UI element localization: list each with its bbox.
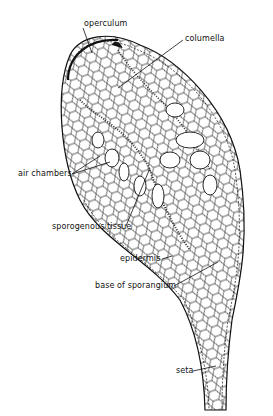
label-air-chambers: air chambers <box>18 169 72 178</box>
sporangium-illustration <box>0 0 273 416</box>
label-sporogenous-tissue: sporogenous tissue <box>52 222 131 231</box>
label-seta: seta <box>176 366 194 375</box>
label-operculum: operculum <box>84 19 127 28</box>
label-base-of-sporangium: base of sporangium <box>95 281 176 290</box>
label-epidermis: epidermis <box>120 254 160 263</box>
label-columella: columella <box>185 34 225 43</box>
